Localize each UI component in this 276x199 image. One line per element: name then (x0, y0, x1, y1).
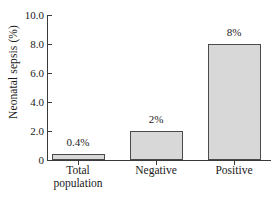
bar-value-label-positive: 8% (227, 27, 242, 38)
y-tick-label: 2.0 (14, 126, 44, 137)
x-category-label-negative: Negative (135, 164, 177, 177)
bar-positive[interactable] (208, 44, 261, 160)
x-category-label-total-population: Total population (53, 164, 102, 190)
bar-total-population[interactable] (52, 154, 105, 160)
x-category-label-line1: Total (66, 164, 89, 176)
y-tick-label: 4.0 (14, 97, 44, 108)
y-tick-label: 8.0 (14, 39, 44, 50)
bar-negative[interactable] (130, 131, 183, 160)
y-tick-mark (48, 131, 52, 132)
x-category-label-line1: Positive (215, 164, 252, 176)
x-category-label-line1: Negative (135, 164, 177, 176)
y-tick-mark (48, 160, 52, 161)
y-axis-tick-labels: 10.0 8.0 6.0 4.0 2.0 0 (14, 0, 44, 199)
y-tick-label: 6.0 (14, 68, 44, 79)
x-category-label-line2: population (53, 177, 102, 190)
y-tick-label: 10.0 (14, 10, 44, 21)
bar-value-label-total-population: 0.4% (67, 137, 90, 148)
y-tick-mark (48, 15, 52, 16)
y-axis-spine (47, 15, 48, 161)
y-tick-mark (48, 44, 52, 45)
bar-value-label-negative: 2% (149, 114, 164, 125)
plot-area: 0.4% 2% 8% (47, 15, 271, 160)
y-tick-label: 0 (14, 155, 44, 166)
x-axis-spine (47, 160, 271, 161)
x-category-label-positive: Positive (215, 164, 252, 177)
bar-chart: Neonatal sepsis (%) 10.0 8.0 6.0 4.0 2.0… (0, 0, 276, 199)
y-tick-mark (48, 102, 52, 103)
y-tick-mark (48, 73, 52, 74)
